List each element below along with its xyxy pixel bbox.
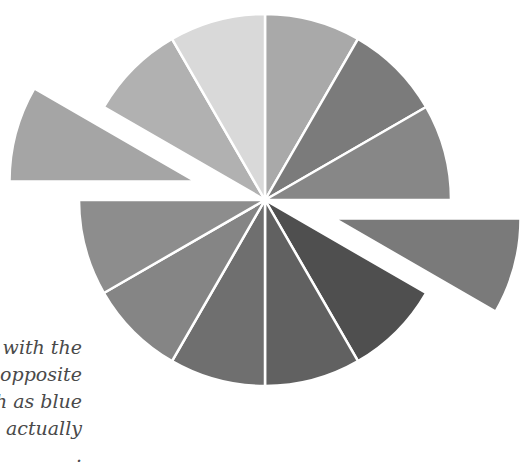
color-wheel-slices bbox=[9, 14, 520, 386]
caption-line-3: ch as blue bbox=[0, 388, 82, 415]
caption-line-4: e actually bbox=[0, 415, 82, 442]
caption-text: s with the t opposite ch as blue e actua… bbox=[0, 334, 82, 465]
caption-line-5: . bbox=[0, 442, 82, 465]
caption-line-2: t opposite bbox=[0, 361, 82, 388]
caption-line-1: s with the bbox=[0, 334, 82, 361]
